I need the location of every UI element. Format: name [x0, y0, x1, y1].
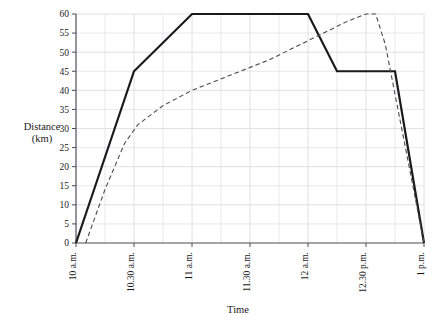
chart-canvas: 051015202530354045505560 10 a.m.10.30 a.… — [0, 0, 440, 323]
y-axis-title-line1: Distance — [24, 121, 61, 132]
y-axis-tick-label: 45 — [60, 67, 70, 77]
y-axis-tick-label: 35 — [60, 105, 70, 115]
y-axis-tick-labels: 051015202530354045505560 — [60, 9, 70, 248]
major-gridlines — [76, 14, 424, 243]
x-axis-tick-label: 10.30 a.m. — [126, 252, 136, 292]
y-axis-tick-label: 30 — [60, 124, 70, 134]
y-axis-tick-label: 20 — [60, 162, 70, 172]
y-axis-tick-label: 0 — [64, 238, 69, 248]
x-axis-tick-label: 1 p.m. — [416, 252, 426, 276]
y-axis-tick-label: 55 — [60, 28, 70, 38]
y-axis-tick-label: 15 — [60, 181, 70, 191]
y-axis-tick-label: 5 — [64, 219, 69, 229]
x-axis-tick-label: 10 a.m. — [68, 252, 78, 280]
y-axis-title-line2: (km) — [32, 133, 53, 145]
y-axis-ticks — [72, 14, 76, 243]
x-axis-tick-label: 11 a.m. — [184, 252, 194, 280]
x-axis-tick-label: 12.30 p.m. — [358, 252, 368, 293]
y-axis-tick-label: 60 — [60, 9, 70, 19]
x-axis-ticks — [76, 243, 424, 247]
y-axis-tick-label: 50 — [60, 48, 70, 58]
y-axis-tick-label: 25 — [60, 143, 70, 153]
x-axis-title: Time — [227, 304, 249, 315]
y-axis-tick-label: 10 — [60, 200, 70, 210]
distance-time-graph: 051015202530354045505560 10 a.m.10.30 a.… — [0, 0, 440, 323]
x-axis-tick-label: 11.30 a.m. — [242, 252, 252, 292]
x-axis-tick-labels: 10 a.m.10.30 a.m.11 a.m.11.30 a.m.12 a.m… — [68, 252, 426, 293]
x-axis-tick-label: 12 a.m. — [300, 252, 310, 280]
y-axis-tick-label: 40 — [60, 86, 70, 96]
